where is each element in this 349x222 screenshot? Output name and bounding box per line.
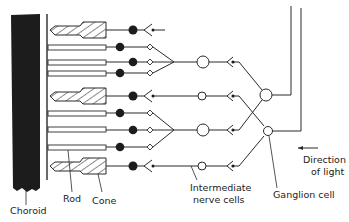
light-direction-arrow-icon bbox=[298, 146, 318, 150]
intermediate-label-line1: Intermediate bbox=[190, 182, 251, 193]
cone-nucleus-icon bbox=[129, 26, 138, 35]
rod-label: Rod bbox=[63, 193, 81, 204]
rod-nucleus-icon bbox=[129, 126, 138, 135]
rod-nucleus-icon bbox=[116, 69, 125, 78]
ganglion-pointer bbox=[269, 136, 277, 188]
cone-label: Cone bbox=[92, 195, 116, 206]
intermediate-pointer bbox=[191, 166, 197, 180]
cone-nucleus-icon bbox=[129, 92, 138, 101]
direction-label-line2: of light bbox=[311, 166, 344, 177]
direction-label-line1: Direction bbox=[303, 154, 346, 165]
cone-nucleus-icon bbox=[129, 162, 138, 171]
rod-nucleus-icon bbox=[129, 58, 138, 67]
rod-nucleus-icon bbox=[116, 43, 125, 52]
rod-nucleus-icon bbox=[116, 109, 125, 118]
choroid-layer bbox=[11, 14, 40, 192]
cone-pointer bbox=[98, 174, 102, 192]
rod-group bbox=[48, 43, 197, 78]
ganglion-label: Ganglion cell bbox=[273, 189, 335, 200]
rod-group bbox=[48, 109, 197, 152]
intermediate-label-line2: nerve cells bbox=[193, 194, 245, 205]
ganglion-cells bbox=[260, 6, 301, 136]
cone-cell bbox=[50, 158, 198, 174]
intermediate-nerve-cells bbox=[197, 56, 264, 171]
cone-cell bbox=[50, 88, 198, 104]
choroid-label: Choroid bbox=[10, 205, 47, 216]
cone-cell bbox=[50, 22, 165, 38]
rod-nucleus-icon bbox=[116, 143, 125, 152]
